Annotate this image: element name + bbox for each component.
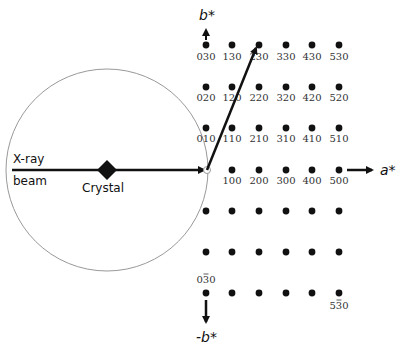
lattice-point [229,208,236,215]
b-star-label: b* [199,7,215,23]
miller-index: 520 [329,92,348,103]
lattice-point [336,125,343,132]
miller-index-negative: 530 [329,300,348,311]
ewald-sphere-diagram: 0301302303304305300201202203204205200101… [0,0,402,350]
lattice-point [203,290,210,297]
reciprocal-lattice-points [203,42,343,297]
lattice-point [336,290,343,297]
miller-index: 420 [302,92,321,103]
miller-index: 400 [302,175,321,186]
miller-index: 200 [249,175,268,186]
lattice-point [309,125,316,132]
lattice-point [203,208,210,215]
lattice-point [283,84,290,91]
lattice-point [256,42,263,49]
lattice-point [203,249,210,256]
crystal-label: Crystal [82,181,124,195]
lattice-point [203,42,210,49]
lattice-point [309,290,316,297]
miller-index: 510 [329,133,348,144]
miller-index: 130 [222,51,241,62]
lattice-point [336,208,343,215]
miller-index: 300 [276,175,295,186]
lattice-point [256,84,263,91]
lattice-point [229,167,236,174]
beam-label: beam [13,174,47,188]
miller-index: 310 [276,133,295,144]
lattice-point [336,249,343,256]
miller-index: 500 [329,175,348,186]
crystal-diamond-icon [97,160,117,180]
miller-index: 210 [249,133,268,144]
diffracted-beam-arrow [207,48,256,170]
lattice-point [229,42,236,49]
lattice-point [256,167,263,174]
lattice-point [309,208,316,215]
miller-index: 220 [249,92,268,103]
lattice-point [229,84,236,91]
xray-label: X-ray [13,152,44,166]
lattice-point [283,42,290,49]
a-star-label: a* [380,162,396,178]
lattice-point [283,125,290,132]
lattice-point [336,167,343,174]
miller-index: 010 [196,133,215,144]
miller-index: 110 [222,133,241,144]
miller-index: 020 [196,92,215,103]
miller-index: 330 [276,51,295,62]
lattice-point [309,249,316,256]
lattice-point [229,290,236,297]
lattice-point [283,290,290,297]
miller-index: 410 [302,133,321,144]
lattice-point [229,125,236,132]
lattice-point [256,249,263,256]
lattice-point [309,84,316,91]
miller-index-labels: 0301302303304305300201202203204205200101… [196,51,348,311]
lattice-point [309,42,316,49]
lattice-point [336,84,343,91]
miller-index: 030 [196,51,215,62]
neg-b-star-label: -b* [196,329,217,345]
lattice-point [283,167,290,174]
miller-index: 100 [222,175,241,186]
lattice-point [309,167,316,174]
miller-index: 430 [302,51,321,62]
miller-index: 530 [329,51,348,62]
lattice-point [203,125,210,132]
lattice-point [229,249,236,256]
lattice-point [256,290,263,297]
miller-index: 320 [276,92,295,103]
lattice-point [283,249,290,256]
lattice-point [283,208,290,215]
lattice-point [256,125,263,132]
lattice-point [336,42,343,49]
lattice-point [203,84,210,91]
miller-index-negative: 030 [196,274,215,285]
lattice-point [256,208,263,215]
